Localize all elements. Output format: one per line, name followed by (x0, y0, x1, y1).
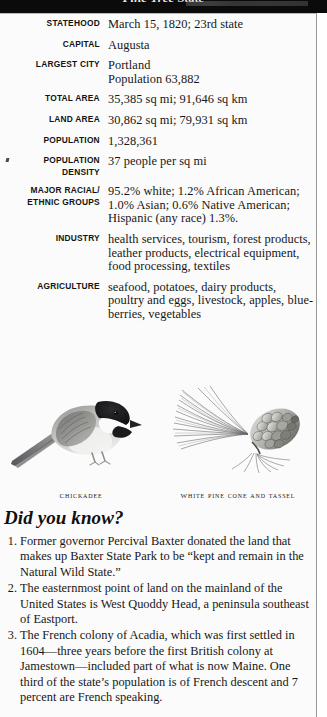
banner-scan-artifact (186, 1, 308, 6)
table-row: MAJOR RACIAL/ ETHNIC GROUPS 95.2% white;… (0, 185, 316, 226)
plate-chickadee: Chickadee (6, 382, 156, 502)
table-row: POPULATION 1,328,361 (0, 135, 316, 149)
fact-label-major-racial-ethnic-groups: MAJOR RACIAL/ ETHNIC GROUPS (11, 185, 108, 208)
plate-caption-white-pine-cone: White Pine Cone and Tassel (160, 489, 316, 500)
table-row: STATEHOOD March 15, 1820; 23rd state (0, 18, 316, 32)
fact-value-major-racial-ethnic-groups: 95.2% white; 1.2% African American; 1.0%… (108, 185, 316, 226)
fact-value-industry: health services, tourism, forest product… (108, 233, 316, 274)
plate-white-pine-cone-and-tassel: White Pine Cone and Tassel (160, 382, 316, 502)
white-pine-cone-illustration (160, 382, 316, 474)
fact-value-total-area: 35,385 sq mi; 91,646 sq km (108, 93, 316, 107)
table-row: AGRICULTURE seafood, potatoes, dairy pro… (0, 281, 316, 322)
fact-value-statehood: March 15, 1820; 23rd state (108, 18, 316, 32)
fact-label-total-area: TOTAL AREA (11, 93, 108, 105)
table-row: INDUSTRY health services, tourism, fores… (0, 233, 316, 274)
banner-hairline (0, 13, 327, 14)
table-row: LARGEST CITY Portland Population 63,882 (0, 59, 316, 86)
fact-value-agriculture: seafood, potatoes, dairy products, poult… (108, 281, 316, 322)
fact-label-capital: CAPITAL (11, 39, 108, 51)
fact-label-land-area: LAND AREA (11, 114, 108, 126)
did-you-know-list: 1. Former governor Percival Baxter donat… (4, 534, 314, 705)
plate-caption-chickadee: Chickadee (6, 489, 156, 500)
table-row: TOTAL AREA 35,385 sq mi; 91,646 sq km (0, 93, 316, 107)
fact-label-population-density: POPULATION DENSITY (11, 155, 108, 178)
list-item-number: 2. (4, 581, 17, 596)
state-facts-table: STATEHOOD March 15, 1820; 23rd state CAP… (0, 18, 316, 329)
list-item: 2. The easternmost point of land on the … (4, 581, 314, 627)
table-row: CAPITAL Augusta (0, 39, 316, 53)
table-row: POPULATION DENSITY 37 people per sq mi (0, 155, 316, 178)
table-row: LAND AREA 30,862 sq mi; 79,931 sq km (0, 114, 316, 128)
page-banner: Pine Tree State (0, 0, 327, 13)
did-you-know-section: Did you know? 1. Former governor Perciva… (4, 507, 314, 706)
list-item: 1. Former governor Percival Baxter donat… (4, 534, 314, 580)
list-item-number: 1. (4, 534, 17, 549)
fact-value-largest-city: Portland Population 63,882 (108, 59, 316, 86)
illustration-plates: Chickadee (0, 382, 316, 502)
fact-value-capital: Augusta (108, 39, 316, 53)
fact-label-industry: INDUSTRY (11, 233, 108, 245)
fact-label-agriculture: AGRICULTURE (11, 281, 108, 293)
chickadee-illustration (6, 382, 156, 474)
fact-value-population: 1,328,361 (108, 135, 316, 149)
fact-label-statehood: STATEHOOD (11, 18, 108, 30)
list-item: 3. The French colony of Acadia, which wa… (4, 628, 314, 705)
list-item-text: The easternmost point of land on the mai… (20, 581, 309, 626)
did-you-know-heading: Did you know? (4, 507, 314, 529)
list-item-text: Former governor Percival Baxter donated … (20, 534, 304, 579)
fact-label-largest-city: LARGEST CITY (11, 59, 108, 71)
list-item-number: 3. (4, 628, 17, 643)
page-outer-margin (317, 13, 327, 717)
list-item-text: The French colony of Acadia, which was f… (20, 628, 298, 704)
fact-value-land-area: 30,862 sq mi; 79,931 sq km (108, 114, 316, 128)
fact-label-population: POPULATION (11, 135, 108, 147)
fact-value-population-density: 37 people per sq mi (108, 155, 316, 169)
